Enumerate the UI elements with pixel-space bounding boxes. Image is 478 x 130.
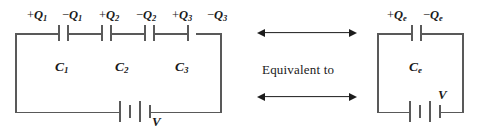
- charge-label-plus-qe: +Qe: [387, 9, 407, 22]
- capacitor-3-plate-right: [153, 25, 155, 41]
- wire-bottom-left: [377, 112, 409, 114]
- equivalent-capacitor-label: Ce: [409, 60, 422, 75]
- battery-plate-short-1: [129, 105, 131, 118]
- wire-top-segment-5: [196, 33, 222, 35]
- wire-top-left: [377, 33, 412, 35]
- wire-top-right: [421, 33, 464, 35]
- arrow-head-right-icon: [349, 29, 357, 37]
- wire-top-segment-4: [154, 33, 187, 35]
- battery-voltage-label: V: [152, 115, 161, 128]
- charge-label-minus-q3: −Q3: [207, 9, 227, 22]
- wire-top-segment-3: [111, 33, 145, 35]
- capacitor-label-c3: C3: [175, 60, 189, 75]
- figure-canvas: +Q1 −Q1 +Q2 −Q2 +Q3 −Q3 C1 C2 C3: [0, 0, 478, 130]
- wire-right: [220, 33, 222, 113]
- wire-left: [377, 33, 379, 113]
- capacitor-3-plate-outer: [187, 25, 189, 41]
- wire-top-segment-2: [68, 33, 102, 35]
- wire-top-segment-1: [15, 33, 59, 35]
- charge-label-plus-q2: +Q2: [99, 9, 119, 22]
- arrow-head-left-icon: [257, 29, 265, 37]
- capacitor-label-c1: C1: [55, 60, 69, 75]
- battery-plate-long-1: [119, 101, 121, 122]
- charge-label-minus-q1: −Q1: [62, 9, 82, 22]
- equivalent-capacitor-plate-left: [411, 25, 413, 41]
- charge-label-plus-q3: +Q3: [172, 9, 192, 22]
- equivalence-arrow-top: [257, 27, 357, 38]
- wire-bottom-right: [440, 112, 464, 114]
- capacitor-2-plate-right: [110, 25, 112, 41]
- battery-plate-short-1: [419, 105, 421, 118]
- charge-label-plus-q1: +Q1: [27, 9, 47, 22]
- charge-label-minus-q2: −Q2: [136, 9, 156, 22]
- equivalence-arrow-bottom: [257, 91, 357, 102]
- capacitor-1-plate-left: [58, 25, 60, 41]
- wire-bottom-right: [150, 112, 222, 114]
- battery-plate-long-2: [429, 101, 431, 122]
- capacitor-label-c2: C2: [115, 60, 129, 75]
- battery-plate-long-1: [409, 101, 411, 122]
- arrow-shaft: [264, 32, 350, 34]
- equivalent-to-text: Equivalent to: [262, 62, 334, 78]
- battery-plate-long-2: [139, 101, 141, 122]
- wire-right: [462, 33, 464, 113]
- battery-plate-short-2: [149, 105, 151, 118]
- charge-label-minus-qe: −Qe: [423, 9, 443, 22]
- wire-bottom-left: [15, 112, 119, 114]
- capacitor-1-plate-right: [67, 25, 69, 41]
- battery-plate-short-2: [439, 105, 441, 118]
- equivalent-capacitor-plate-right: [420, 25, 422, 41]
- battery-voltage-label: V: [438, 88, 447, 101]
- arrow-head-left-icon: [257, 93, 265, 101]
- arrow-shaft: [264, 96, 350, 98]
- arrow-head-right-icon: [349, 93, 357, 101]
- wire-left: [15, 33, 17, 113]
- capacitor-2-plate-left: [101, 25, 103, 41]
- capacitor-3-plate-left: [144, 25, 146, 41]
